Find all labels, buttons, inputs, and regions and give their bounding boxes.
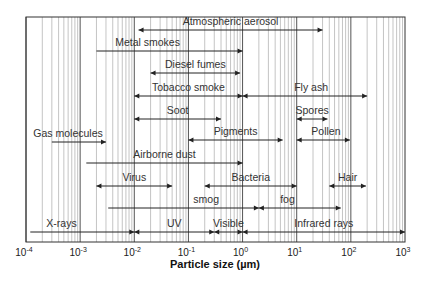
x-tick-label: 102: [341, 246, 356, 258]
range-infrared-rays: Infrared rays: [243, 217, 405, 235]
range-atmospheric-aerosol: Atmospheric aerosol: [139, 15, 323, 33]
range-gas-molecules: Gas molecules: [33, 127, 106, 145]
range-soot: Soot: [134, 104, 221, 122]
arrowhead-icon: [362, 94, 367, 99]
arrowhead-icon: [254, 206, 259, 211]
range-label: Fly ash: [294, 81, 328, 93]
arrowhead-icon: [209, 230, 214, 235]
arrowhead-icon: [96, 184, 101, 189]
range-visible: Visible: [213, 217, 244, 235]
arrowhead-icon: [134, 230, 139, 235]
range-label: Soot: [167, 104, 189, 116]
range-label: Pigments: [214, 125, 258, 137]
range-label: UV: [167, 217, 182, 229]
x-tick-label: 10-4: [15, 246, 32, 258]
range-uv: UV: [134, 217, 214, 235]
x-tick-label: 10-3: [69, 246, 86, 258]
range-label: Gas molecules: [33, 127, 102, 139]
particle-size-chart: Atmospheric aerosolMetal smokesDiesel fu…: [0, 0, 433, 282]
arrowhead-icon: [336, 206, 341, 211]
arrowhead-icon: [243, 230, 248, 235]
arrowhead-icon: [318, 28, 323, 33]
range-label: Infrared rays: [294, 217, 353, 229]
arrowhead-icon: [134, 94, 139, 99]
arrowhead-icon: [297, 117, 302, 122]
range-x-rays: X-rays: [30, 217, 134, 235]
arrowhead-icon: [243, 94, 248, 99]
range-pollen: Pollen: [297, 125, 350, 143]
range-bacteria: Bacteria: [205, 171, 297, 189]
range-virus: Virus: [96, 171, 172, 189]
range-label: X-rays: [46, 217, 76, 229]
range-label: Visible: [213, 217, 244, 229]
x-tick-label: 10-1: [178, 246, 195, 258]
x-tick-label: 101: [287, 246, 302, 258]
arrowhead-icon: [345, 138, 350, 143]
arrowhead-icon: [322, 117, 327, 122]
arrowhead-icon: [167, 184, 172, 189]
x-tick-label: 103: [395, 246, 410, 258]
range-spores: Spores: [295, 104, 328, 122]
arrowhead-icon: [329, 184, 334, 189]
range-label: Airborne dust: [133, 148, 196, 160]
x-axis-title: Particle size (µm): [170, 258, 260, 270]
range-fog: fog: [259, 193, 341, 211]
range-label: Virus: [122, 171, 146, 183]
arrowhead-icon: [259, 206, 264, 211]
range-label: Tobacco smoke: [152, 81, 225, 93]
x-tick-label: 10-2: [124, 246, 141, 258]
range-label: Atmospheric aerosol: [183, 15, 279, 27]
range-label: Metal smokes: [115, 36, 180, 48]
x-tick-label: 100: [233, 246, 248, 258]
size-range-arrows: Atmospheric aerosolMetal smokesDiesel fu…: [30, 15, 405, 235]
arrowhead-icon: [205, 184, 210, 189]
arrowhead-icon: [361, 184, 366, 189]
arrowhead-icon: [139, 28, 144, 33]
range-label: fog: [280, 193, 295, 205]
arrowhead-icon: [188, 138, 193, 143]
arrowhead-icon: [134, 117, 139, 122]
range-label: Diesel fumes: [165, 58, 226, 70]
x-axis-tick-labels: 10-410-310-210-1100101102103: [15, 246, 410, 258]
arrowhead-icon: [297, 138, 302, 143]
range-label: smog: [193, 193, 219, 205]
range-label: Hair: [338, 171, 358, 183]
range-label: Spores: [295, 104, 328, 116]
arrowhead-icon: [214, 230, 219, 235]
arrowhead-icon: [101, 140, 106, 145]
range-label: Bacteria: [231, 171, 270, 183]
arrowhead-icon: [151, 71, 156, 76]
arrowhead-icon: [216, 117, 221, 122]
range-airborne-dust: Airborne dust: [86, 148, 242, 166]
range-label: Pollen: [311, 125, 340, 137]
